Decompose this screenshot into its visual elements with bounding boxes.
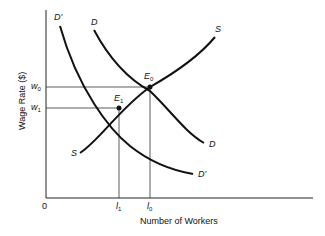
- s-bottom-label: S: [71, 149, 77, 158]
- d-top-label: D: [91, 18, 98, 27]
- d-prime-top-label: D': [54, 13, 62, 22]
- d-prime-end-label: D': [198, 170, 206, 179]
- d-end-label: D: [209, 140, 216, 149]
- x-axis-title: Number of Workers: [140, 217, 218, 226]
- demand-curve-d-prime: [60, 26, 193, 174]
- origin-label: 0: [42, 202, 47, 211]
- s-top-label: S: [215, 25, 221, 34]
- e0-label: E0: [144, 72, 153, 82]
- y-axis-title: Wage Rate ($): [18, 72, 27, 130]
- equilibrium-e1-dot: [117, 106, 122, 111]
- equilibrium-e0-dot: [148, 85, 153, 90]
- l1-tick-label: l1: [116, 202, 121, 212]
- labor-market-diagram: [0, 0, 325, 236]
- w1-tick-label: w1: [31, 103, 41, 113]
- w0-tick-label: w0: [31, 82, 41, 92]
- e1-label: E1: [114, 94, 123, 104]
- l0-tick-label: l0: [147, 202, 152, 212]
